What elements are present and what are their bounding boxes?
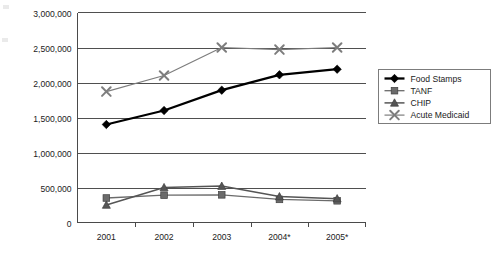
legend-label: CHIP xyxy=(411,98,432,108)
y-axis-tick-labels: 0500,0001,000,0001,500,0002,000,0002,500… xyxy=(33,9,71,229)
y-axis-tick-label: 2,500,000 xyxy=(33,44,71,54)
legend-item-acute-medicaid[interactable]: Acute Medicaid xyxy=(385,110,470,120)
x-axis-tick-label: 2003 xyxy=(212,232,231,242)
data-point-marker-square xyxy=(218,192,225,199)
y-axis-tick-label: 2,000,000 xyxy=(33,79,71,89)
y-axis-tick-label: 500,000 xyxy=(40,184,71,194)
line-chart: 0500,0001,000,0001,500,0002,000,0002,500… xyxy=(0,0,500,269)
data-point-marker-square xyxy=(391,87,398,94)
x-axis-tick-label: 2004* xyxy=(268,232,291,242)
y-axis-tick-label: 1,000,000 xyxy=(33,149,71,159)
y-axis-tick-label: 3,000,000 xyxy=(33,9,71,19)
x-axis-tickmarks xyxy=(136,223,366,227)
x-axis-tick-label: 2002 xyxy=(154,232,173,242)
data-point-marker-square xyxy=(161,192,168,199)
chart-container: 0500,0001,000,0001,500,0002,000,0002,500… xyxy=(0,0,500,269)
chart-legend: Food StampsTANFCHIPAcute Medicaid xyxy=(379,70,491,124)
x-axis-tick-label: 2005* xyxy=(326,232,349,242)
y-axis-tick-label: 0 xyxy=(67,219,72,229)
legend-label: Acute Medicaid xyxy=(411,110,470,120)
y-axis-tick-label: 1,500,000 xyxy=(33,114,71,124)
x-axis-tick-label: 2001 xyxy=(97,232,116,242)
legend-label: TANF xyxy=(411,86,433,96)
plot-area-background xyxy=(77,13,366,223)
x-axis-tick-labels: 2001200220032004*2005* xyxy=(97,232,349,242)
legend-label: Food Stamps xyxy=(411,74,462,84)
